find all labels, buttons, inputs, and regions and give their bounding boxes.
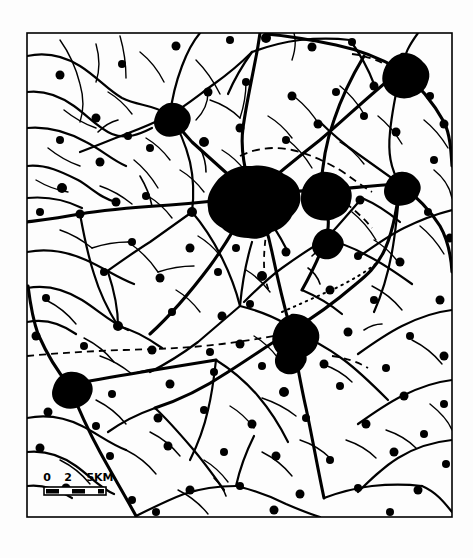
scale-bar-segment-1 xyxy=(46,489,59,494)
scale-tick-label-2: 2 xyxy=(64,471,72,484)
scale-bar-segment-2 xyxy=(72,489,85,494)
scale-tick-label-0: 0 xyxy=(43,471,51,484)
map-figure: 0 2 5KM xyxy=(0,0,473,558)
scale-tick-label-5km: 5KM xyxy=(86,471,113,484)
map-canvas: 0 2 5KM xyxy=(0,0,473,558)
scale-bar-segment-3 xyxy=(98,489,104,494)
